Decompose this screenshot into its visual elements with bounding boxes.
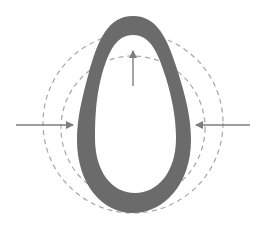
egg-ring — [77, 16, 191, 213]
diagram-svg — [0, 0, 268, 228]
diagram-canvas — [0, 0, 268, 228]
